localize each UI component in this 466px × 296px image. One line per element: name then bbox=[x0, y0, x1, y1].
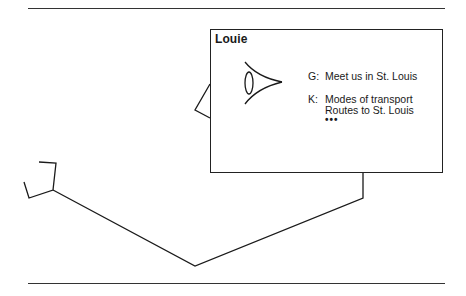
bottom-rule bbox=[28, 283, 445, 284]
card-title: Louie bbox=[215, 32, 248, 46]
louie-card[interactable]: Louie G:Meet us in St. Louis K:Modes of … bbox=[210, 29, 443, 173]
card-triangle-line bbox=[195, 84, 210, 118]
entry-g: G:Meet us in St. Louis bbox=[308, 71, 417, 82]
entry-key: G: bbox=[308, 71, 325, 82]
main-path-line bbox=[53, 173, 363, 266]
entry-text: Meet us in St. Louis bbox=[325, 70, 417, 82]
entry-k: K:Modes of transportRoutes to St. Louis bbox=[308, 94, 414, 116]
eye-icon bbox=[241, 61, 283, 105]
entry-key: K: bbox=[308, 94, 325, 105]
left-bracket-line bbox=[24, 162, 56, 198]
more-ellipsis: ••• bbox=[325, 114, 339, 125]
